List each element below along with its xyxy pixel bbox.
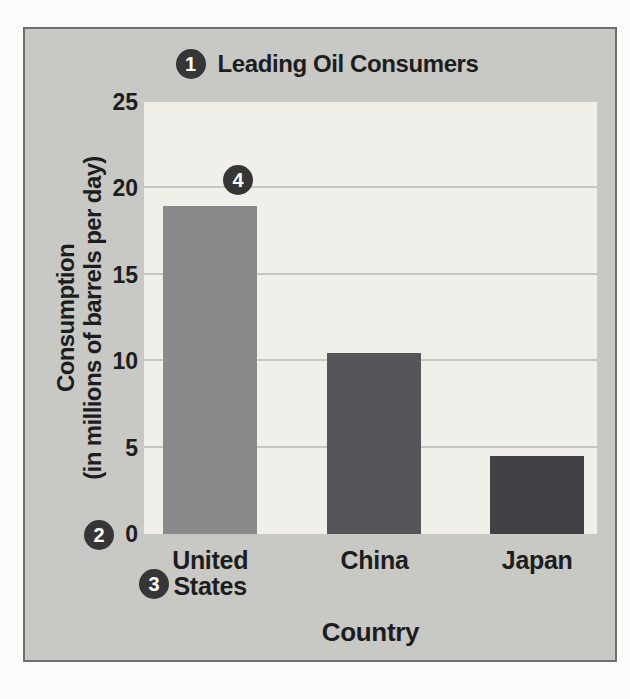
callout-2-badge: 2	[84, 520, 114, 550]
x-tick-labels: UnitedStatesChinaJapan	[144, 547, 597, 605]
y-tick-labels: 2520151050	[25, 102, 138, 534]
chart-title: Leading Oil Consumers	[218, 50, 479, 78]
y-tick-15: 15	[112, 261, 138, 288]
y-tick-25: 25	[112, 89, 138, 116]
plot-area	[144, 102, 597, 534]
title-row: 1 Leading Oil Consumers	[25, 49, 615, 79]
x-axis-title: Country	[144, 617, 597, 648]
y-tick-20: 20	[112, 175, 138, 202]
gridline-20	[144, 186, 597, 188]
x-label-japan: Japan	[502, 547, 573, 573]
bar-united-states	[163, 206, 257, 534]
callout-1-badge: 1	[176, 49, 206, 79]
x-label-united-states: UnitedStates	[172, 547, 248, 599]
y-tick-5: 5	[125, 434, 138, 461]
x-label-china: China	[341, 547, 409, 573]
bar-china	[327, 353, 421, 534]
scanned-page: 1 Leading Oil Consumers Consumption (in …	[0, 0, 630, 699]
y-tick-10: 10	[112, 348, 138, 375]
callout-4-badge: 4	[223, 165, 253, 195]
bar-japan	[490, 456, 584, 534]
callout-3-badge: 3	[139, 569, 169, 599]
y-tick-0: 0	[125, 521, 138, 548]
figure-card: 1 Leading Oil Consumers Consumption (in …	[23, 27, 617, 662]
